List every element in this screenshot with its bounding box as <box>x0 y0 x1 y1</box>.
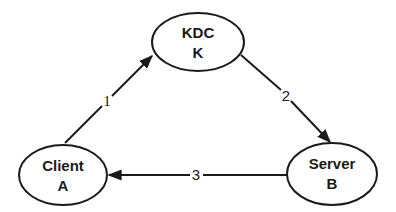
node-server-id: B <box>327 175 338 192</box>
edge-label-1: 1 <box>103 93 111 109</box>
edge-client-to-kdc: 1 <box>65 56 152 143</box>
edge-label-3: 3 <box>192 166 200 183</box>
node-kdc-name: KDC <box>182 24 215 41</box>
edge-kdc-to-server: 2 <box>241 55 330 142</box>
node-kdc-id: K <box>193 44 204 61</box>
edge-server-to-client: 3 <box>109 166 288 183</box>
node-kdc: KDC K <box>152 13 244 71</box>
node-server: Server B <box>287 143 377 205</box>
kerberos-diagram: 1 2 3 KDC K Client A Server B <box>0 0 396 212</box>
node-client: Client A <box>19 145 107 205</box>
node-server-name: Server <box>309 155 356 172</box>
node-client-id: A <box>58 177 69 194</box>
node-client-name: Client <box>42 157 84 174</box>
edge-label-2: 2 <box>282 87 290 104</box>
